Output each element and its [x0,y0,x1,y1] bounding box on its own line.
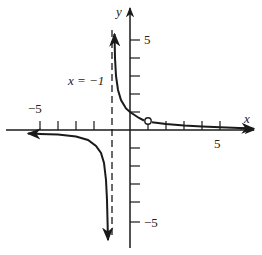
y-tick-label-5: 5 [144,32,151,47]
y-ticks [130,40,140,222]
open-circle-hole [145,118,151,124]
y-tick-label-neg5: −5 [144,215,158,230]
x-axis-label: x [243,111,250,126]
asymptote-label: x = −1 [67,73,104,88]
rational-function-graph: y x 5 −5 −5 5 x = −1 [0,0,262,255]
right-branch-arrow [240,128,254,129]
y-axis-label: y [114,4,122,19]
x-tick-label-5: 5 [214,136,221,151]
left-branch-curve [40,134,108,240]
x-tick-label-neg5: −5 [28,101,42,116]
right-branch-curve [115,34,253,129]
